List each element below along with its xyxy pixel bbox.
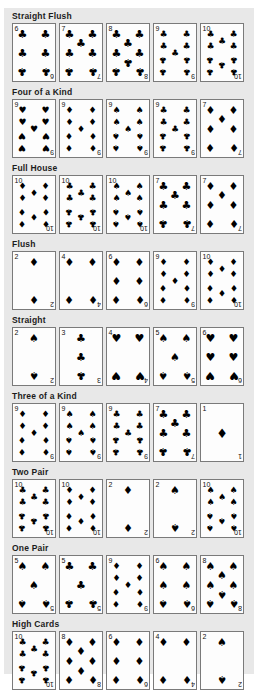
playing-card: 99♥♥♥♥♥♥♥♥♥ [12,99,56,158]
pip-diamonds: ♦ [112,636,122,647]
pip-diamonds: ♦ [65,118,73,127]
playing-card: 1010♣♣♣♣♣♣♣♣♣♣ [12,479,56,538]
pip-spades: ♠ [218,516,226,525]
pip-clubs: ♣ [89,219,97,228]
pip-spades: ♠ [229,560,239,571]
pip-clubs: ♣ [89,206,97,215]
card-pips: ♠♠♠♠♠ [158,335,192,378]
pip-diamonds: ♦ [77,124,85,133]
pip-clubs: ♣ [183,130,191,139]
pip-diamonds: ♦ [76,664,86,675]
pip-diamonds: ♦ [216,426,228,439]
pip-hearts: ♥ [18,105,26,114]
pip-spades: ♠ [136,206,144,215]
card-pips: ♣♣♣♣♣♣♣♣♣ [111,411,145,454]
card-pips: ♣♣♣♣♣♣♣ [158,183,192,226]
pip-clubs: ♣ [183,105,191,114]
pip-diamonds: ♦ [182,674,192,685]
pip-diamonds: ♦ [230,295,238,304]
card-pips: ♣♣♣♣♣♣♣♣♣ [158,107,192,150]
card-rank-bottom-right: 9 [50,149,54,156]
pip-spades: ♠ [182,370,192,381]
pip-spades: ♠ [136,219,144,228]
pip-diamonds: ♦ [159,257,167,266]
card-pips: ♣♣♣♣♣♣♣ [64,31,98,74]
card-pips: ♦♦♦♦ [64,259,98,302]
pip-diamonds: ♦ [65,130,73,139]
pip-diamonds: ♦ [65,105,73,114]
pip-diamonds: ♦ [112,561,120,570]
card-row: 66♣♣♣♣♣♣77♣♣♣♣♣♣♣88♣♣♣♣♣♣♣♣99♣♣♣♣♣♣♣♣♣10… [4,23,254,82]
pip-spades: ♠ [41,560,51,571]
pip-clubs: ♣ [112,47,122,58]
card-rank-bottom-right: 9 [144,149,148,156]
pip-hearts: ♥ [206,351,216,362]
card-rank-bottom-right: 2 [238,681,242,688]
pip-hearts: ♥ [229,332,239,343]
pip-diamonds: ♦ [88,655,98,666]
hand-section-title: Flush [4,236,254,251]
card-rank-bottom-right: 9 [191,301,195,308]
pip-diamonds: ♦ [18,219,26,228]
playing-card: 66♦♦♦♦♦♦ [106,631,150,690]
pip-clubs: ♣ [159,130,167,139]
playing-card: 1010♦♦♦♦♦♦♦♦♦♦ [12,175,56,234]
pip-diamonds: ♦ [136,574,144,583]
card-pips: ♣♣♣♣♣♣♣♣♣♣ [17,639,51,682]
playing-card: 22♠♠ [12,327,56,386]
playing-card: 55♠♠♠♠♠ [12,555,56,614]
poker-hand-ranking-chart: Straight Flush66♣♣♣♣♣♣77♣♣♣♣♣♣♣88♣♣♣♣♣♣♣… [4,8,254,674]
playing-card: 99♦♦♦♦♦♦♦♦♦ [59,99,103,158]
hand-section-title: One Pair [4,540,254,555]
pip-spades: ♠ [136,130,144,139]
card-pips: ♠♠♠♠♠♠ [158,563,192,606]
playing-card: 99♣♣♣♣♣♣♣♣♣ [153,23,197,82]
pip-clubs: ♣ [76,332,86,343]
pip-clubs: ♣ [136,409,144,418]
pip-diamonds: ♦ [135,275,145,286]
pip-diamonds: ♦ [135,294,145,305]
pip-clubs: ♣ [42,650,50,659]
pip-clubs: ♣ [18,66,28,77]
pip-diamonds: ♦ [206,104,216,115]
pip-hearts: ♥ [206,370,216,381]
pip-clubs: ♣ [89,194,97,203]
card-pips: ♦♦♦♦♦♦♦ [205,107,239,150]
card-rank-bottom-right: 9 [144,605,148,612]
pip-clubs: ♣ [30,668,38,677]
hand-section: Straight Flush66♣♣♣♣♣♣77♣♣♣♣♣♣♣88♣♣♣♣♣♣♣… [4,8,254,84]
pip-diamonds: ♦ [65,256,75,267]
pip-diamonds: ♦ [29,294,39,305]
playing-card: 44♦♦♦♦ [153,631,197,690]
pip-clubs: ♣ [159,427,169,438]
pip-clubs: ♣ [76,579,86,590]
pip-clubs: ♣ [30,516,38,525]
pip-clubs: ♣ [159,180,169,191]
playing-card: 1010♣♣♣♣♣♣♣♣♣♣ [200,23,244,82]
pip-hearts: ♥ [135,370,145,381]
pip-clubs: ♣ [159,218,169,229]
pip-spades: ♠ [112,206,120,215]
pip-diamonds: ♦ [183,270,191,279]
card-rank-bottom-right: 9 [97,149,101,156]
pip-diamonds: ♦ [77,492,85,501]
pip-spades: ♠ [182,598,192,609]
pip-diamonds: ♦ [217,190,227,201]
card-row: 1010♣♣♣♣♣♣♣♣♣♣1010♦♦♦♦♦♦♦♦♦♦22♦♦22♠♠1010… [4,479,254,538]
playing-card: 1010♦♦♦♦♦♦♦♦♦♦ [59,479,103,538]
pip-diamonds: ♦ [206,257,214,266]
pip-diamonds: ♦ [183,295,191,304]
pip-clubs: ♣ [182,218,192,229]
pip-spades: ♠ [89,434,97,443]
pip-diamonds: ♦ [206,295,214,304]
pip-diamonds: ♦ [89,143,97,152]
card-pips: ♦♦♦♦♦♦♦♦♦ [111,563,145,606]
pip-diamonds: ♦ [229,218,239,229]
card-pips: ♦♦ [17,259,51,302]
pip-spades: ♠ [217,588,227,599]
pip-clubs: ♣ [159,105,167,114]
pip-clubs: ♣ [77,212,85,221]
playing-card: 99♣♣♣♣♣♣♣♣♣ [106,403,150,462]
pip-diamonds: ♦ [18,422,26,431]
pip-diamonds: ♦ [159,270,167,279]
